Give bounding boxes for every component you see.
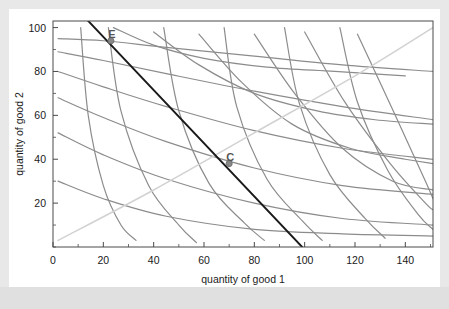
x-axis-title: quantity of good 1 [201,273,285,285]
x-tick-label: 120 [346,254,364,266]
plot-background [9,9,440,287]
x-tick-label: 60 [198,254,210,266]
y-axis-title: quantity of good 2 [13,92,25,176]
figure-canvas: EC 02040608010012014020406080100 quantit… [9,9,440,287]
x-tick-label: 140 [397,254,415,266]
x-tick-label: 40 [148,254,160,266]
y-tick-label: 60 [34,109,46,121]
y-tick-label: 40 [34,153,46,165]
y-tick-label: 80 [34,65,46,77]
x-tick-label: 0 [50,254,56,266]
annotation-label-e: E [108,28,115,40]
x-tick-label: 100 [296,254,314,266]
x-tick-label: 80 [248,254,260,266]
annotation-label-c: C [226,151,234,163]
figure-root: EC 02040608010012014020406080100 quantit… [0,0,449,309]
y-tick-label: 20 [34,197,46,209]
y-tick-label: 100 [28,22,46,34]
indifference-curve-chart: EC 02040608010012014020406080100 quantit… [9,9,440,287]
x-tick-label: 20 [97,254,109,266]
figure-bottom-margin [0,287,449,309]
